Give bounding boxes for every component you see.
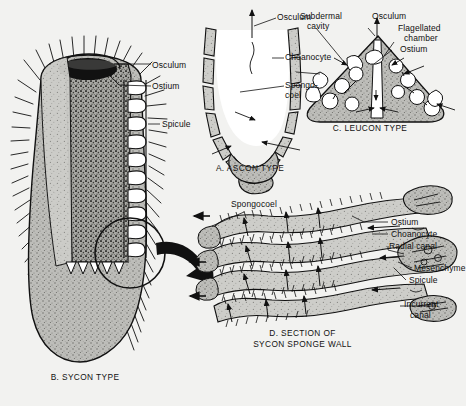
label-radial-canal-panel-d: Radial canal bbox=[389, 241, 437, 251]
label-ostium-panel-b: Ostium bbox=[152, 81, 180, 91]
caption-panel-d-line1: D. SECTION OF bbox=[215, 328, 390, 339]
label-choanocyte-panel-a: Choanocyte bbox=[285, 52, 331, 62]
caption-panel-b: B. SYCON TYPE bbox=[20, 372, 150, 383]
panel-b-mesenchyme-column bbox=[66, 64, 131, 262]
label-osculum-panel-c: Osculum bbox=[372, 11, 406, 21]
label-incurrent-panel-d-line1: Incurrent bbox=[404, 299, 438, 309]
label-ostium-panel-c: Ostium bbox=[400, 44, 428, 54]
label-spicule-panel-b: Spicule bbox=[162, 119, 191, 129]
label-mesenchyme-panel-d: Mesenchyme bbox=[414, 263, 466, 273]
caption-panel-c: C. LEUCON TYPE bbox=[310, 123, 430, 134]
label-ostium-panel-d: Ostium bbox=[391, 217, 419, 227]
label-subdermal-panel-c-line1: Subdermal bbox=[300, 11, 342, 21]
label-spicule-panel-d: Spicule bbox=[409, 275, 438, 285]
label-incurrent-panel-d-line2: canal bbox=[410, 310, 431, 320]
caption-panel-d-line2: SYCON SPONGE WALL bbox=[215, 339, 390, 350]
caption-panel-a: A. ASCON TYPE bbox=[190, 163, 310, 174]
label-subdermal-panel-c-line2: cavity bbox=[307, 21, 329, 31]
label-spongocoel-panel-d: Spongocoel bbox=[231, 199, 277, 209]
label-spongocoel-panel-a-line2: coel bbox=[285, 90, 301, 100]
label-choanocyte-panel-d: Choanocyte bbox=[391, 229, 437, 239]
panel-d-mesenchyme-nodules bbox=[196, 226, 220, 300]
label-flagellated-panel-c-line1: Flagellated bbox=[398, 23, 441, 33]
label-flagellated-panel-c-line2: chamber bbox=[404, 33, 438, 43]
label-spongocoel-panel-a-line1: Spongo- bbox=[285, 80, 318, 90]
label-osculum-panel-b: Osculum bbox=[152, 60, 186, 70]
